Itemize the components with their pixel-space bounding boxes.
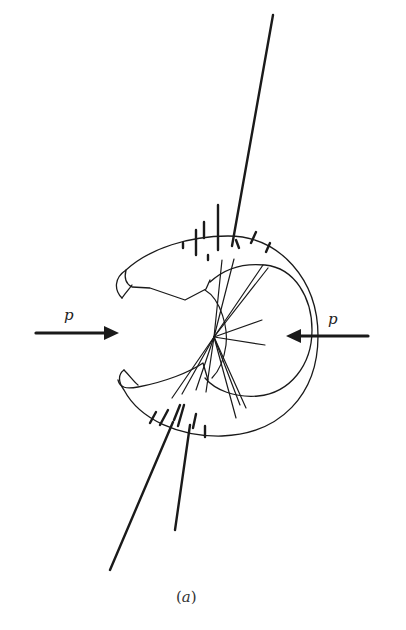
caption-letter: a bbox=[182, 588, 191, 606]
particle-tracks bbox=[172, 259, 268, 418]
notch-upper bbox=[122, 270, 210, 300]
caption-close-paren: ) bbox=[191, 588, 197, 606]
beam-label-left: p bbox=[64, 306, 74, 324]
jet-down bbox=[175, 425, 190, 530]
beam-label-right: p bbox=[328, 310, 338, 328]
event-display-diagram bbox=[0, 0, 406, 630]
figure-caption: (a) bbox=[176, 588, 197, 606]
beam-arrow-right bbox=[286, 329, 368, 343]
calorimeter-hits-bottom bbox=[150, 405, 205, 437]
jet-up bbox=[232, 15, 273, 246]
notch-lower bbox=[118, 363, 208, 388]
jet-down-left bbox=[110, 422, 173, 570]
beam-arrow-left bbox=[36, 326, 119, 340]
calorimeter-hits-top bbox=[183, 205, 270, 260]
inner-detector-circle bbox=[205, 265, 312, 397]
